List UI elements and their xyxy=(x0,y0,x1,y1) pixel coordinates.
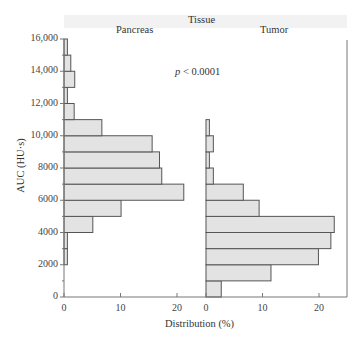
histogram-bar-pancreas xyxy=(64,71,75,87)
histogram-bar-tumor xyxy=(206,136,213,152)
histogram-bar-pancreas xyxy=(64,233,67,249)
x-tick-label: 20 xyxy=(169,302,185,313)
x-tick-label: 10 xyxy=(113,302,129,313)
histogram-bar-pancreas xyxy=(64,136,152,152)
histogram-bar-pancreas xyxy=(64,55,71,71)
y-tick-label: 14,000 xyxy=(31,64,59,75)
y-tick-label: 12,000 xyxy=(31,97,59,108)
histogram-bar-tumor xyxy=(206,249,318,265)
histogram-bar-pancreas xyxy=(64,249,67,265)
histogram-bar-tumor xyxy=(206,152,209,168)
histogram-bar-pancreas xyxy=(64,87,67,103)
histogram-bar-tumor xyxy=(206,184,243,200)
y-tick-label: 4000 xyxy=(38,226,58,237)
histogram-bar-pancreas xyxy=(64,104,74,120)
y-tick-label: 8000 xyxy=(38,161,58,172)
x-tick-label: 0 xyxy=(56,302,72,313)
histogram-bar-tumor xyxy=(206,168,213,184)
histogram-bar-pancreas xyxy=(64,39,67,55)
histogram-bar-tumor xyxy=(206,120,209,136)
y-tick-label: 16,000 xyxy=(31,32,59,43)
x-tick-label: 10 xyxy=(255,302,271,313)
histogram-bar-pancreas xyxy=(64,168,162,184)
histogram-bar-tumor xyxy=(206,233,331,249)
histogram-bar-tumor xyxy=(206,265,271,281)
x-tick-label: 0 xyxy=(198,302,214,313)
histogram-bar-pancreas xyxy=(64,120,102,136)
histogram-bar-pancreas xyxy=(64,152,159,168)
x-tick-label: 20 xyxy=(311,302,327,313)
histogram-bar-pancreas xyxy=(64,200,121,216)
histogram-bar-tumor xyxy=(206,216,334,232)
histogram-bar-tumor xyxy=(206,281,221,297)
y-tick-label: 6000 xyxy=(38,193,58,204)
histogram-bar-pancreas xyxy=(64,216,93,232)
y-tick-label: 2000 xyxy=(38,258,58,269)
histogram-bar-pancreas xyxy=(64,184,184,200)
y-tick-label: 10,000 xyxy=(31,129,59,140)
y-tick-label: 0 xyxy=(53,290,58,301)
histogram-bar-tumor xyxy=(206,200,259,216)
